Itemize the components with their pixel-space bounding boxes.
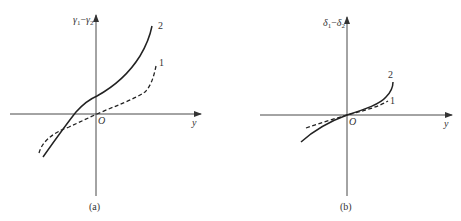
curve-2-label: 2 [158, 20, 163, 31]
origin-label: O [349, 116, 356, 127]
curve-1-label: 1 [159, 57, 164, 68]
panel-b: δ1−δ2 O y 2 1 (b) [260, 17, 452, 213]
curve-2 [43, 26, 152, 157]
curve-2-label: 2 [388, 69, 393, 80]
y-axis-label: δ1−δ2 [323, 17, 345, 30]
figure: γ1−γ2 O y 2 1 (a) δ1−δ2 O y 2 1 (b) [0, 0, 461, 221]
x-axis-label: y [191, 117, 197, 128]
curve-1 [39, 66, 156, 153]
curve-1-label: 1 [390, 95, 395, 106]
y-axis-label: γ1−γ2 [73, 14, 94, 27]
origin-label: O [98, 115, 105, 126]
caption-a: (a) [89, 201, 100, 213]
panel-a: γ1−γ2 O y 2 1 (a) [10, 14, 201, 213]
x-axis-label: y [443, 118, 449, 129]
caption-b: (b) [340, 201, 352, 213]
